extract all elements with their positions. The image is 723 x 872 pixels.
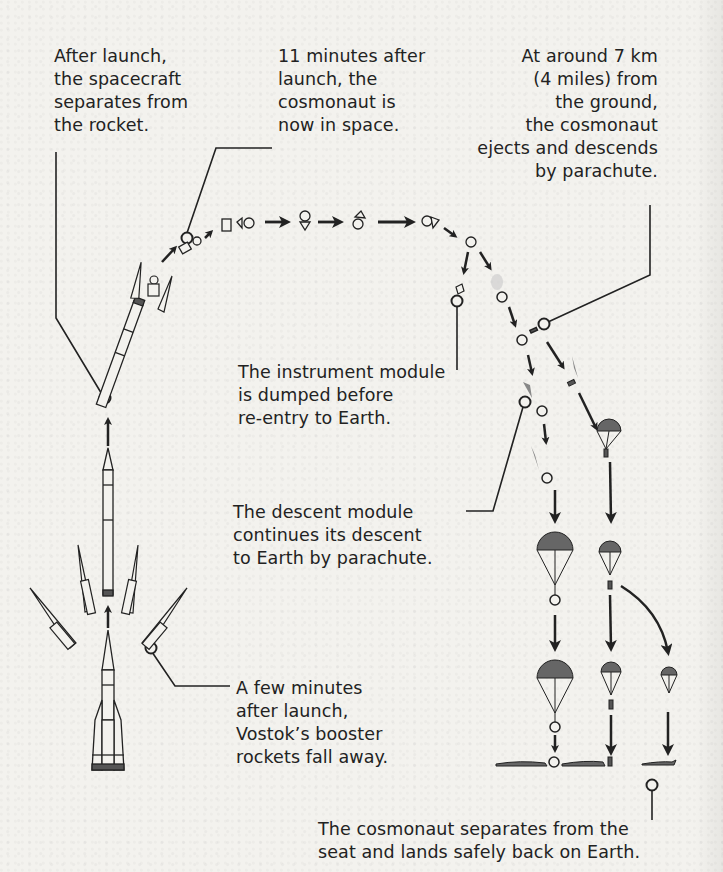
reentry-glow bbox=[491, 274, 503, 290]
flame-icon bbox=[572, 356, 578, 378]
parachute-descent-module-icon-2 bbox=[537, 660, 573, 732]
orbit-spacecraft-sequence bbox=[179, 211, 476, 254]
instrument-module-icon bbox=[456, 284, 464, 294]
leader-boosters bbox=[152, 652, 230, 686]
parachute-small-icon bbox=[597, 419, 621, 457]
leader-descent-module bbox=[466, 407, 523, 511]
descent-module-icon bbox=[497, 292, 507, 302]
rocket-core-icon bbox=[103, 448, 113, 596]
rocket-ascent-icon bbox=[96, 297, 144, 408]
landing-ground-icons bbox=[496, 757, 676, 767]
flight-sequence-diagram bbox=[0, 0, 723, 872]
parachute-descent-module-icon bbox=[537, 532, 573, 605]
parachute-cosmonaut-separated-icon bbox=[661, 667, 677, 693]
parachute-cosmonaut-icon-2 bbox=[601, 662, 621, 709]
rocket-launch-icon bbox=[92, 630, 124, 770]
leader-ejection bbox=[548, 205, 650, 322]
parachute-cosmonaut-icon bbox=[599, 541, 621, 589]
flame-icon bbox=[531, 446, 539, 470]
leader-separation bbox=[56, 152, 103, 396]
